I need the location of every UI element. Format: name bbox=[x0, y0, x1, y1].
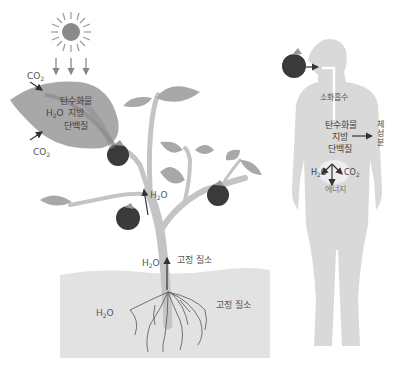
soil-water-label: H2O bbox=[96, 309, 114, 319]
leaf-co2-bottom-label: CO2 bbox=[33, 148, 50, 158]
leaf-fat-label: 지방 bbox=[68, 109, 84, 118]
human-protein-label: 단백질 bbox=[328, 145, 352, 154]
human-water-output-label: H2O bbox=[311, 169, 327, 178]
nutrient-cycle-diagram: CO2 탄수화물 H2O 지방 단백질 CO2 H2O H2O 고정 질소 H2… bbox=[0, 0, 400, 366]
stem-water-upper-label: H2O bbox=[150, 191, 168, 201]
human-co2-output-label: CO2 bbox=[344, 169, 360, 178]
leaf-water-label: H2O bbox=[46, 109, 64, 119]
big-leaf bbox=[10, 81, 119, 150]
human-carbohydrate-label: 탄수화물 bbox=[325, 121, 357, 130]
stem-nitrogen-label: 고정 질소 bbox=[177, 256, 212, 265]
body-composition-label: 체성분 bbox=[375, 120, 383, 147]
fruit-left bbox=[116, 206, 140, 230]
human-fat-label: 지방 bbox=[332, 133, 348, 142]
soil-nitrogen-label: 고정 질소 bbox=[216, 301, 251, 310]
stem-water-lower-label: H2O bbox=[142, 259, 160, 269]
sunlight-arrows bbox=[56, 58, 86, 74]
energy-label: 에너지 bbox=[325, 186, 346, 194]
digestion-label: 소화흡수 bbox=[320, 94, 348, 102]
leaf-co2-top-label: CO2 bbox=[27, 72, 44, 82]
leaf-protein-label: 단백질 bbox=[64, 122, 88, 131]
leaf-carbohydrate-label: 탄수화물 bbox=[60, 97, 92, 106]
fruit-right bbox=[207, 184, 229, 206]
apple-icon bbox=[282, 48, 306, 78]
illustration-canvas bbox=[0, 0, 400, 366]
sun-icon bbox=[51, 12, 91, 52]
